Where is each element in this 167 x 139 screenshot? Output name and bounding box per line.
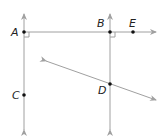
label-a: A bbox=[10, 26, 19, 39]
label-c: C bbox=[12, 89, 20, 102]
label-d: D bbox=[98, 84, 106, 97]
label-e: E bbox=[129, 17, 136, 30]
point-d bbox=[108, 82, 112, 86]
geometry-diagram: A B E C D bbox=[0, 0, 167, 139]
point-b bbox=[108, 30, 112, 34]
point-c bbox=[22, 93, 26, 97]
point-a bbox=[22, 30, 26, 34]
label-b: B bbox=[97, 17, 105, 30]
point-e bbox=[131, 30, 135, 34]
